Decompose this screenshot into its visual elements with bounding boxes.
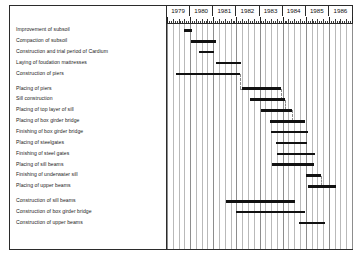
dependency-connector	[240, 74, 241, 89]
tick-mark	[258, 21, 259, 24]
tick-mark	[288, 19, 289, 23]
tick-mark	[175, 21, 176, 24]
tick-mark	[252, 21, 253, 24]
year-label-row: 19791980198119821983198419851986	[167, 6, 352, 16]
tick-mark	[248, 19, 249, 23]
tick-mark	[331, 21, 332, 24]
year-label-1983: 1983	[260, 6, 283, 16]
gridline-quarter	[288, 24, 289, 249]
tick-mark	[254, 19, 255, 23]
year-label-1979: 1979	[167, 6, 190, 16]
tick-mark	[339, 21, 340, 24]
tick-mark	[217, 21, 218, 24]
chart-frame: Improvement of subsoilCompaction of subs…	[9, 5, 353, 250]
tick-mark	[186, 21, 187, 24]
tick-mark	[213, 17, 214, 23]
tick-mark	[348, 21, 349, 24]
gantt-bar[interactable]	[271, 131, 308, 134]
gantt-bar[interactable]	[250, 98, 285, 101]
tick-mark	[236, 17, 237, 23]
gridline-quarter	[323, 24, 324, 249]
tick-mark	[209, 21, 210, 24]
tick-mark	[200, 21, 201, 24]
gantt-bar[interactable]	[261, 109, 292, 112]
gantt-bar[interactable]	[184, 29, 192, 32]
task-label: Laying of foudation mattresses	[16, 59, 87, 65]
task-label: Placing of steelgates	[16, 139, 64, 145]
tick-mark	[304, 21, 305, 24]
gridline-quarter	[271, 24, 272, 249]
tick-mark	[229, 21, 230, 24]
year-label-1982: 1982	[236, 6, 259, 16]
gantt-bar[interactable]	[299, 222, 326, 225]
tick-mark	[198, 21, 199, 24]
gridline-quarter	[340, 24, 341, 249]
year-label-1986: 1986	[329, 6, 352, 16]
tick-mark	[329, 17, 330, 23]
gridline-quarter	[254, 24, 255, 249]
gridline-quarter	[202, 24, 203, 249]
task-label: Sill construction	[16, 95, 53, 101]
gridline-quarter	[346, 24, 347, 249]
task-label: Finishing of steel gates	[16, 150, 69, 156]
gantt-bar[interactable]	[276, 142, 307, 145]
task-label: Construction of sill beams	[16, 197, 76, 203]
gridline-quarter	[277, 24, 278, 249]
tick-mark	[177, 21, 178, 24]
tick-mark	[240, 21, 241, 24]
gridline-year	[306, 24, 307, 249]
tick-mark	[265, 19, 266, 23]
gridline-year	[329, 24, 330, 249]
task-label: Finishing of box girder bridge	[16, 128, 83, 134]
gantt-bar[interactable]	[226, 200, 295, 203]
gridline-quarter	[242, 24, 243, 249]
tick-mark	[267, 21, 268, 24]
gridline-quarter	[248, 24, 249, 249]
tick-mark	[275, 21, 276, 24]
gantt-bar[interactable]	[191, 40, 215, 43]
gantt-bar[interactable]	[308, 185, 336, 188]
tick-mark	[285, 21, 286, 24]
tick-mark	[319, 21, 320, 24]
tick-mark	[315, 21, 316, 24]
gantt-bar[interactable]	[272, 163, 314, 166]
tick-mark	[306, 17, 307, 23]
gantt-chart: Improvement of subsoilCompaction of subs…	[0, 0, 357, 255]
gridline-quarter	[196, 24, 197, 249]
gridline-year	[283, 24, 284, 249]
gantt-bar[interactable]	[270, 120, 305, 123]
tick-mark	[261, 21, 262, 24]
year-label-1985: 1985	[306, 6, 329, 16]
task-label: Finishing of underwater sill	[16, 171, 78, 177]
gridline-year	[213, 24, 214, 249]
gantt-bar[interactable]	[236, 211, 304, 214]
tick-mark	[313, 21, 314, 24]
gantt-bar[interactable]	[306, 174, 321, 177]
gridline-quarter	[312, 24, 313, 249]
task-label: Placing of piers	[16, 85, 52, 91]
gridline-year	[352, 24, 353, 249]
tick-mark	[325, 21, 326, 24]
gridline-year	[236, 24, 237, 249]
tick-mark	[231, 19, 232, 23]
task-label: Improvement of subsoil	[16, 26, 70, 32]
tick-mark	[300, 19, 301, 23]
gantt-bar[interactable]	[277, 153, 315, 156]
gridline-quarter	[184, 24, 185, 249]
tick-mark	[317, 19, 318, 23]
task-label: Placing of box girder bridge	[16, 117, 79, 123]
gantt-bar[interactable]	[242, 87, 281, 90]
gantt-bar[interactable]	[176, 73, 240, 76]
gridline-quarter	[219, 24, 220, 249]
gantt-bar[interactable]	[199, 51, 214, 54]
task-label: Compaction of subsoil	[16, 37, 67, 43]
task-label: Construction of piers	[16, 70, 64, 76]
tick-mark	[333, 21, 334, 24]
tick-mark	[310, 21, 311, 24]
tick-mark	[352, 17, 353, 23]
gantt-bar[interactable]	[216, 62, 241, 65]
tick-mark	[250, 21, 251, 24]
tick-mark	[206, 21, 207, 24]
tick-mark	[337, 21, 338, 24]
tick-mark	[188, 21, 189, 24]
